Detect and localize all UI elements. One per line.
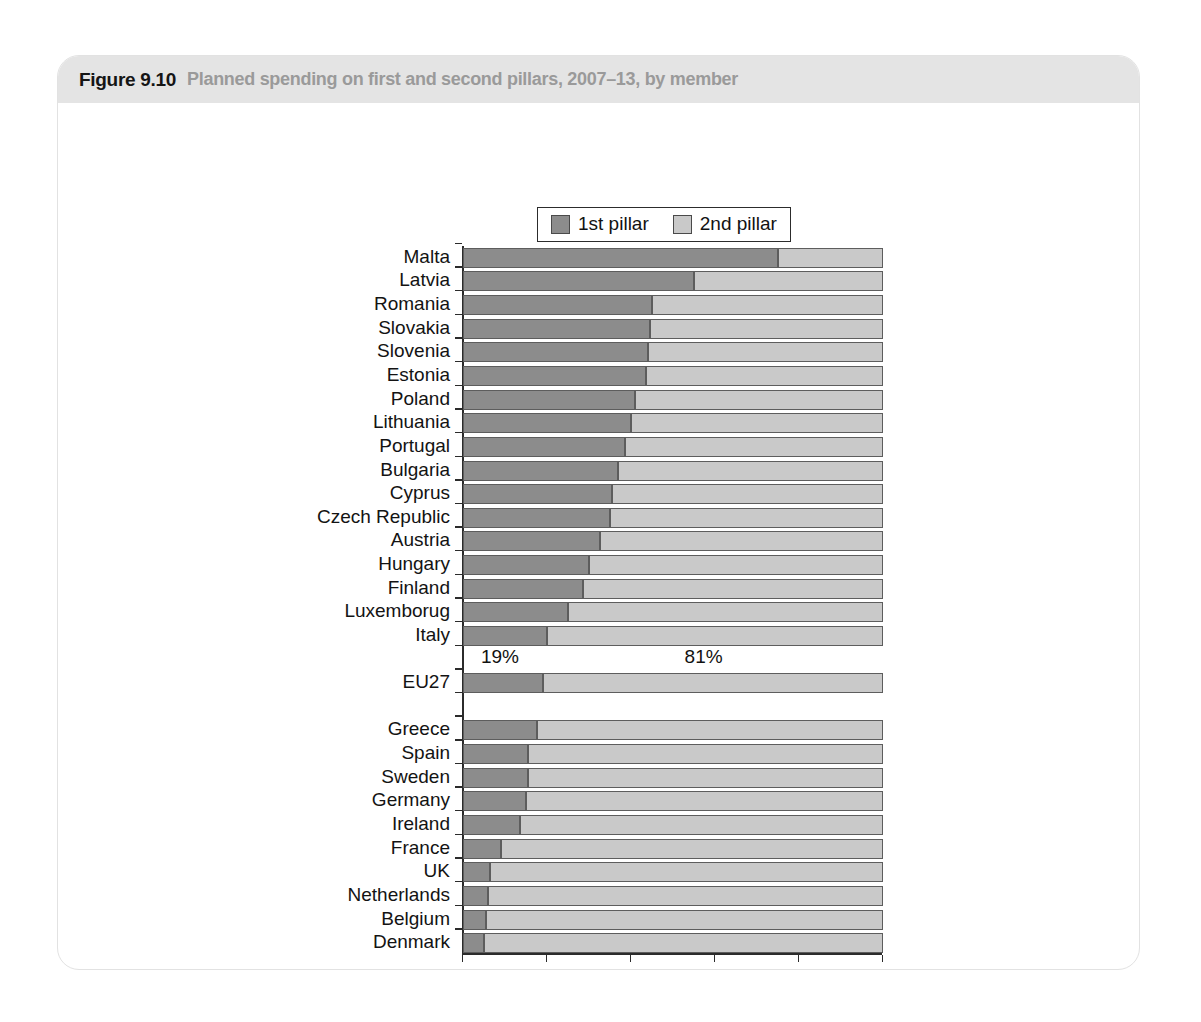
bar-segment-1st-pillar: [463, 791, 526, 811]
bar-segment-2nd-pillar: [646, 366, 883, 386]
bar-segment-1st-pillar: [463, 815, 520, 835]
legend-entry-1st-pillar: 1st pillar: [551, 213, 649, 235]
bar-segment-1st-pillar: [463, 910, 486, 930]
bar-row: Sweden: [462, 768, 882, 788]
bar-row: UK: [462, 862, 882, 882]
bar-segment-1st-pillar: [463, 862, 490, 882]
stacked-bar: [463, 815, 883, 835]
category-label: Hungary: [378, 553, 450, 575]
y-axis-tick: [455, 526, 462, 527]
bar-row: Spain: [462, 744, 882, 764]
stacked-bar: [463, 862, 883, 882]
bar-segment-2nd-pillar: [520, 815, 883, 835]
bar-segment-1st-pillar: [463, 579, 583, 599]
bar-segment-2nd-pillar: [650, 319, 883, 339]
bar-segment-2nd-pillar: [610, 508, 883, 528]
bar-segment-2nd-pillar: [583, 579, 883, 599]
category-label: Greece: [388, 718, 450, 740]
category-label: Cyprus: [390, 482, 450, 504]
bar-segment-1st-pillar: [463, 602, 568, 622]
bar-row: France: [462, 839, 882, 859]
y-axis-tick: [455, 574, 462, 575]
y-axis-tick: [455, 432, 462, 433]
bar-segment-2nd-pillar: [490, 862, 883, 882]
category-label: Finland: [388, 577, 450, 599]
x-axis-tick-label: 60: [703, 968, 725, 970]
legend-swatch-icon-2nd-pillar: [673, 215, 692, 234]
y-axis-tick: [455, 479, 462, 480]
bar-segment-2nd-pillar: [501, 839, 883, 859]
legend-entry-2nd-pillar: 2nd pillar: [673, 213, 777, 235]
y-axis-tick: [455, 786, 462, 787]
bar-row: Netherlands: [462, 886, 882, 906]
legend-label-1st-pillar: 1st pillar: [578, 213, 649, 235]
category-label: Luxemborug: [344, 600, 450, 622]
y-axis-tick: [455, 621, 462, 622]
category-label: Malta: [404, 246, 450, 268]
bar-segment-1st-pillar: [463, 437, 625, 457]
bar-segment-1st-pillar: [463, 295, 652, 315]
category-label: Ireland: [392, 813, 450, 835]
y-axis-tick: [455, 715, 462, 716]
stacked-bar: [463, 673, 883, 693]
figure-number: Figure 9.10: [79, 69, 176, 91]
bar-annotation: 19%: [481, 646, 519, 668]
bar-segment-2nd-pillar: [618, 461, 883, 481]
stacked-bar: [463, 910, 883, 930]
y-axis-tick: [455, 550, 462, 551]
stacked-bar: [463, 413, 883, 433]
stacked-bar: [463, 626, 883, 646]
bar-segment-1st-pillar: [463, 839, 501, 859]
bar-segment-1st-pillar: [463, 484, 612, 504]
category-label: Denmark: [373, 931, 450, 953]
category-label: Slovenia: [377, 340, 450, 362]
stacked-bar: [463, 531, 883, 551]
bar-row: Malta: [462, 248, 882, 268]
y-axis-tick: [455, 905, 462, 906]
bar-segment-2nd-pillar: [537, 720, 884, 740]
category-label: France: [391, 837, 450, 859]
x-axis-tick: [714, 955, 715, 962]
bar-segment-1st-pillar: [463, 673, 543, 693]
figure-header: Figure 9.10 Planned spending on first an…: [58, 56, 1139, 103]
category-label: EU27: [402, 671, 450, 693]
category-label: Lithuania: [373, 411, 450, 433]
stacked-bar: [463, 437, 883, 457]
category-label: Spain: [401, 742, 450, 764]
bar-segment-2nd-pillar: [589, 555, 883, 575]
category-label: Netherlands: [348, 884, 450, 906]
bar-segment-1st-pillar: [463, 271, 694, 291]
bar-segment-1st-pillar: [463, 720, 537, 740]
stacked-bar: [463, 461, 883, 481]
bar-segment-2nd-pillar: [488, 886, 883, 906]
stacked-bar: [463, 602, 883, 622]
bar-segment-2nd-pillar: [625, 437, 883, 457]
bar-segment-1st-pillar: [463, 531, 600, 551]
y-axis-tick: [455, 668, 462, 669]
category-label: Portugal: [379, 435, 450, 457]
y-axis-tick: [455, 597, 462, 598]
y-axis-tick: [455, 928, 462, 929]
x-axis-tick-label: 0: [456, 968, 467, 970]
x-axis-tick-label: 20: [535, 968, 557, 970]
bar-segment-2nd-pillar: [612, 484, 883, 504]
y-axis-tick: [455, 857, 462, 858]
stacked-bar: [463, 366, 883, 386]
bar-row-spacer: [462, 697, 882, 717]
bar-segment-1st-pillar: [463, 555, 589, 575]
bar-segment-1st-pillar: [463, 366, 646, 386]
category-label: Estonia: [387, 364, 450, 386]
y-axis-tick: [455, 243, 462, 244]
y-axis-tick: [455, 361, 462, 362]
bar-row: Finland: [462, 579, 882, 599]
bar-row: Estonia: [462, 366, 882, 386]
bar-row: Germany: [462, 791, 882, 811]
y-axis-tick: [455, 881, 462, 882]
bar-row: Ireland: [462, 815, 882, 835]
stacked-bar: [463, 390, 883, 410]
category-label: Poland: [391, 388, 450, 410]
bar-segment-2nd-pillar: [528, 768, 883, 788]
category-label: Austria: [391, 529, 450, 551]
bar-segment-1st-pillar: [463, 390, 635, 410]
y-axis-tick: [455, 834, 462, 835]
